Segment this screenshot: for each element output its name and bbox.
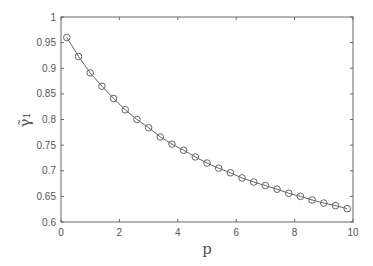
y-tick-label: 0.9 bbox=[42, 63, 56, 74]
x-tick-label: 0 bbox=[58, 227, 64, 238]
y-tick-label: 0.95 bbox=[37, 37, 57, 48]
x-tick-label: 6 bbox=[233, 227, 239, 238]
plot-frame bbox=[61, 17, 353, 222]
x-tick-label: 10 bbox=[347, 227, 359, 238]
y-tick-label: 0.7 bbox=[42, 165, 56, 176]
x-tick-label: 2 bbox=[117, 227, 123, 238]
x-tick-label: 4 bbox=[175, 227, 181, 238]
circle-marker bbox=[344, 205, 351, 212]
axes-box bbox=[61, 17, 353, 222]
data-series bbox=[64, 34, 351, 212]
y-tick-label: 0.8 bbox=[42, 114, 56, 125]
x-tick-labels: 0246810 bbox=[58, 227, 359, 238]
y-tick-label: 0.65 bbox=[37, 191, 57, 202]
line-chart: 0246810 0.60.650.70.750.80.850.90.951 p … bbox=[0, 0, 373, 266]
y-tick-label: 0.6 bbox=[42, 217, 56, 228]
x-axis-label: p bbox=[202, 240, 212, 258]
y-tick-label: 0.85 bbox=[37, 88, 57, 99]
y-tick-label: 0.75 bbox=[37, 140, 57, 151]
y-axis-label: γ̃₁ bbox=[16, 113, 34, 128]
y-tick-label: 1 bbox=[50, 12, 56, 23]
axis-ticks bbox=[61, 17, 353, 222]
series-line bbox=[67, 38, 347, 209]
x-tick-label: 8 bbox=[292, 227, 298, 238]
y-tick-labels: 0.60.650.70.750.80.850.90.951 bbox=[37, 12, 57, 228]
